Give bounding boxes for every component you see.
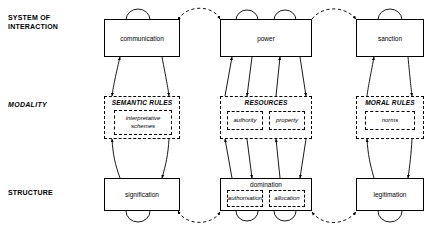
box-power[interactable]: power: [220, 19, 312, 57]
link-semantic-rules-to-communication: [112, 57, 120, 96]
box-sanction-label: sanction: [378, 35, 402, 42]
box-authority[interactable]: authority: [227, 111, 263, 130]
link-sanction-to-moral-rules: [408, 57, 412, 96]
diagram-canvas: SYSTEM OF INTERACTION MODALITY STRUCTURE: [0, 0, 434, 230]
link-resources-to-power-a: [225, 57, 232, 96]
dashed-link-power-sanction: [312, 9, 356, 19]
box-power-label: power: [257, 35, 275, 42]
box-legitimation-label: legitimation: [374, 191, 407, 198]
box-authorisation[interactable]: authorisation: [227, 190, 263, 207]
arc-loop-domination-left: [236, 211, 258, 221]
box-resources[interactable]: RESOURCES authority property: [220, 96, 312, 139]
box-property-label: property: [276, 117, 298, 125]
box-interpretative-schemes[interactable]: interpretative schemes: [114, 110, 172, 135]
link-resources-to-domination-b: [300, 139, 306, 178]
link-moral-rules-to-sanction: [367, 57, 374, 96]
link-resources-to-power-b: [276, 57, 280, 96]
box-domination-title: domination: [221, 181, 311, 188]
box-authorisation-label: authorisation: [228, 195, 262, 203]
box-norms[interactable]: norms: [365, 111, 415, 130]
link-communication-to-semantic-rules: [162, 57, 169, 96]
box-domination[interactable]: domination authorisation allocation: [220, 178, 312, 211]
box-allocation[interactable]: allocation: [269, 190, 305, 207]
link-power-to-resources-a: [247, 57, 252, 96]
box-semantic-rules-title: SEMANTIC RULES: [105, 99, 179, 106]
box-signification[interactable]: signification: [104, 178, 180, 211]
box-moral-rules-title: MORAL RULES: [357, 99, 423, 106]
link-domination-to-resources-b: [276, 139, 280, 178]
box-allocation-label: allocation: [274, 195, 299, 203]
box-communication[interactable]: communication: [104, 19, 180, 57]
link-moral-rules-to-legitimation: [408, 139, 412, 178]
dashed-link-communication-power: [178, 8, 220, 20]
box-norms-label: norms: [382, 117, 399, 125]
dashed-link-domination-legitimation: [312, 212, 356, 223]
dashed-link-signification-domination: [178, 211, 220, 222]
box-authority-label: authority: [233, 117, 256, 125]
box-sanction[interactable]: sanction: [356, 19, 424, 57]
box-interpretative-schemes-label: interpretative schemes: [115, 115, 171, 130]
arc-loop-legitimation: [378, 211, 402, 222]
box-legitimation[interactable]: legitimation: [356, 178, 424, 211]
link-domination-to-resources-a: [225, 139, 232, 178]
box-property[interactable]: property: [269, 111, 305, 130]
link-signification-to-semantic-rules: [112, 139, 120, 178]
arc-loop-domination-right: [274, 211, 296, 221]
link-power-to-resources-b: [300, 57, 306, 96]
link-semantic-rules-to-signification: [162, 139, 169, 178]
link-legitimation-to-moral-rules: [367, 139, 374, 178]
box-communication-label: communication: [120, 35, 164, 42]
box-moral-rules[interactable]: MORAL RULES norms: [356, 96, 424, 139]
box-semantic-rules[interactable]: SEMANTIC RULES interpretative schemes: [104, 96, 180, 139]
box-signification-label: signification: [125, 191, 159, 198]
link-resources-to-domination-a: [247, 139, 252, 178]
box-resources-title: RESOURCES: [221, 99, 311, 106]
arc-loop-signification: [126, 211, 150, 222]
